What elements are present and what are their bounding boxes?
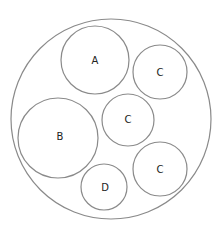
circle-c-top-right: C [133,45,187,99]
circle-b: B [18,98,98,178]
circle-c-top-right-label: C [157,67,164,78]
circle-d: D [81,164,127,210]
circle-a-label: A [92,55,99,66]
circle-c-middle-label: C [125,114,132,125]
circle-d-label: D [101,182,109,193]
circle-c-middle: C [102,94,154,146]
outer-container-circle [11,19,211,219]
circle-b-label: B [57,131,64,142]
nested-circles-diagram: A C C B C D [0,0,219,228]
circle-c-bottom-right-label: C [157,164,164,175]
circle-a: A [61,26,129,94]
circle-c-bottom-right: C [133,142,187,196]
